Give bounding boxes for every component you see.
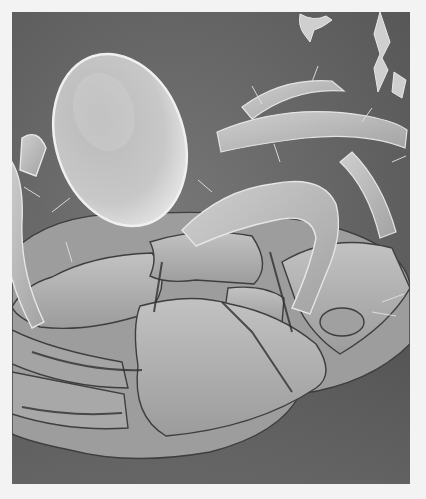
sem-image	[12, 12, 410, 484]
micrograph	[12, 12, 410, 484]
